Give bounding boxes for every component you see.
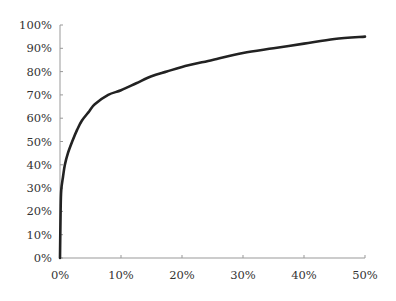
x-tick-label: 40% [291, 268, 317, 282]
y-tick-label: 100% [19, 18, 52, 32]
chart: 0%10%20%30%40%50%60%70%80%90%100% 0%10%2… [0, 0, 396, 301]
y-tick-label: 70% [26, 88, 52, 102]
y-tick-label: 0% [34, 251, 52, 265]
y-tick-label: 80% [26, 65, 52, 79]
x-tick-label: 0% [51, 268, 69, 282]
x-axis [60, 255, 365, 258]
x-tick-label: 50% [352, 268, 378, 282]
y-axis-labels: 0%10%20%30%40%50%60%70%80%90%100% [19, 18, 52, 265]
x-tick-label: 30% [230, 268, 256, 282]
y-tick-label: 10% [26, 228, 52, 242]
y-tick-label: 20% [26, 204, 52, 218]
data-line [60, 37, 365, 258]
y-tick-label: 40% [26, 158, 52, 172]
x-tick-label: 20% [169, 268, 195, 282]
y-tick-label: 30% [26, 181, 52, 195]
x-axis-labels: 0%10%20%30%40%50% [51, 268, 378, 282]
y-tick-label: 60% [26, 111, 52, 125]
y-tick-label: 50% [26, 135, 52, 149]
y-tick-label: 90% [26, 41, 52, 55]
x-tick-label: 10% [108, 268, 134, 282]
